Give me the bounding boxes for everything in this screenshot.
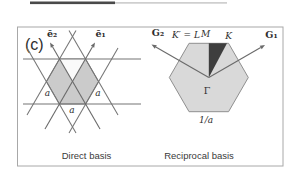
cropped-content-sliver-dark xyxy=(30,2,115,5)
basis-vector-e1-arrowhead-icon xyxy=(91,43,95,48)
reciprocal-basis-caption: Reciprocal basis xyxy=(164,150,234,161)
k-point-label: K xyxy=(224,31,233,41)
lattice-constant-label-bottom: a xyxy=(69,105,74,115)
kprime-point-label: K′ = L xyxy=(171,30,200,40)
basis-vector-e2-label: ē₂ xyxy=(47,28,57,39)
reciprocal-basis-diagram: G₂ G₁ K′ = L M K Γ 1/a Reciprocal basis xyxy=(152,27,278,162)
figure-panel-c: (c) ē₂ ē₁ a a a Dir xyxy=(0,0,289,176)
reciprocal-scale-label: 1/a xyxy=(199,115,213,125)
cropped-content-sliver-light xyxy=(115,2,227,3)
reciprocal-vector-g2-label: G₂ xyxy=(152,27,164,38)
panel-label: (c) xyxy=(25,36,44,53)
basis-vector-e1-label: ē₁ xyxy=(95,28,105,39)
reciprocal-vector-g2-arrowhead-icon xyxy=(152,45,157,49)
figure-canvas: (c) ē₂ ē₁ a a a Dir xyxy=(0,0,289,176)
direct-basis-caption: Direct basis xyxy=(62,150,112,161)
reciprocal-vector-g1-label: G₁ xyxy=(265,29,277,40)
reciprocal-vector-g1-arrowhead-icon xyxy=(260,45,265,49)
lattice-constant-label-right: a xyxy=(95,88,100,98)
m-point-label: M xyxy=(200,29,211,39)
gamma-point-label: Γ xyxy=(204,85,211,96)
basis-vector-e2-arrowhead-icon xyxy=(50,43,54,48)
lattice-constant-label-left: a xyxy=(45,88,50,98)
